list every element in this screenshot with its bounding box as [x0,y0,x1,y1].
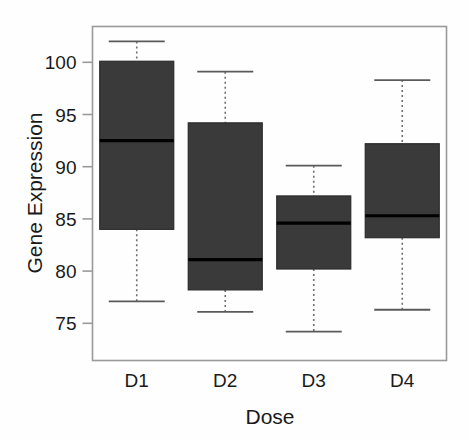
x-category-label-d2: D2 [213,370,237,391]
y-tick-label: 100 [45,52,77,73]
y-tick-label: 80 [55,261,76,282]
box-iqr-rect [188,123,262,290]
x-category-label-d4: D4 [390,370,415,391]
box-plot-d3 [277,166,351,332]
y-axis-title: Gene Expression [23,112,46,273]
box-iqr-rect [365,144,439,238]
box-iqr-rect [277,196,351,269]
x-category-label-d3: D3 [302,370,326,391]
box-plot-d2 [188,72,262,312]
x-axis-title: Dose [245,405,294,428]
box-iqr-rect [100,61,174,229]
y-tick-label: 90 [55,157,76,178]
boxplot-canvas: 7580859095100 D1D2D3D4 Gene Expression D… [0,0,469,440]
y-tick-label: 95 [55,105,76,126]
y-tick-label: 75 [55,313,76,334]
y-tick-label: 85 [55,209,76,230]
box-plot-d4 [365,80,439,310]
x-category-label-d1: D1 [125,370,149,391]
boxplot-figure: 7580859095100 D1D2D3D4 Gene Expression D… [0,0,469,440]
box-series [100,41,440,331]
y-axis-ticks: 7580859095100 [45,52,93,334]
box-plot-d1 [100,41,174,301]
x-axis-category-labels: D1D2D3D4 [125,370,415,391]
